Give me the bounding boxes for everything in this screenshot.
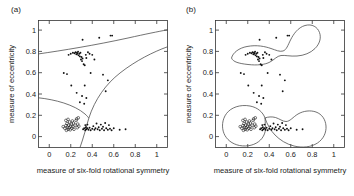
data-point bbox=[119, 129, 121, 131]
data-point bbox=[270, 129, 272, 131]
x-tick-label: 1 bbox=[332, 150, 336, 159]
data-point bbox=[104, 122, 106, 124]
data-point bbox=[261, 124, 263, 126]
data-point bbox=[70, 85, 72, 87]
data-point bbox=[89, 53, 91, 55]
panel-b: (b) bbox=[177, 0, 354, 196]
lower-left-boundary-a bbox=[39, 98, 89, 118]
plot-frame-a bbox=[39, 21, 168, 148]
data-point bbox=[84, 124, 86, 126]
data-point bbox=[93, 59, 95, 61]
y-tick-label: 1 bbox=[209, 26, 213, 35]
data-point bbox=[286, 128, 288, 130]
y-tick-label: 0 bbox=[32, 132, 36, 141]
x-tick-label: 0.6 bbox=[109, 150, 119, 159]
upper-closed-contour-b bbox=[232, 25, 321, 65]
x-tick-label: 0.6 bbox=[286, 150, 296, 159]
data-point bbox=[89, 127, 91, 129]
data-point bbox=[290, 127, 292, 129]
data-point bbox=[266, 53, 268, 55]
data-point bbox=[91, 128, 93, 130]
x-axis-title-a: measure of six-fold rotational symmetry bbox=[37, 166, 170, 175]
decision-boundaries-a bbox=[39, 30, 168, 148]
data-point bbox=[284, 79, 286, 81]
data-point bbox=[105, 90, 107, 92]
data-point bbox=[280, 129, 282, 131]
data-point bbox=[279, 126, 281, 128]
y-tick-label: 0.6 bbox=[203, 68, 213, 77]
data-point bbox=[296, 129, 298, 131]
data-point bbox=[262, 54, 264, 56]
data-point bbox=[268, 54, 270, 56]
data-point bbox=[111, 129, 113, 131]
data-point bbox=[76, 126, 79, 129]
data-point bbox=[245, 54, 247, 56]
y-tick-label: 0.6 bbox=[26, 68, 36, 77]
data-point bbox=[302, 128, 304, 130]
y-tick-label: 0 bbox=[209, 132, 213, 141]
data-point bbox=[66, 73, 68, 75]
data-point bbox=[84, 64, 86, 66]
x-tick-label: 0.2 bbox=[243, 150, 253, 159]
y-tick-labels-a: 0 0.2 0.4 0.6 0.8 1 bbox=[26, 26, 36, 142]
data-point bbox=[253, 126, 256, 129]
data-point bbox=[239, 125, 242, 128]
x-tick-labels-b: 0 0.2 0.4 0.6 0.8 1 bbox=[224, 150, 336, 159]
data-point bbox=[257, 59, 259, 61]
data-point bbox=[262, 57, 264, 59]
y-axis-title-a: measure of eccentricity bbox=[7, 45, 16, 123]
data-point bbox=[247, 53, 249, 55]
data-point bbox=[261, 85, 263, 87]
data-point bbox=[82, 58, 84, 60]
data-point bbox=[274, 128, 276, 130]
data-point bbox=[107, 79, 109, 81]
y-tick-labels-b: 0 0.2 0.4 0.6 0.8 1 bbox=[203, 26, 213, 142]
data-point bbox=[267, 129, 269, 131]
data-point bbox=[260, 103, 262, 105]
data-point bbox=[259, 58, 261, 60]
y-ticks-a bbox=[39, 30, 168, 137]
data-point bbox=[113, 127, 115, 129]
data-point bbox=[88, 129, 90, 131]
data-point bbox=[102, 74, 104, 76]
data-point bbox=[86, 127, 88, 129]
data-point bbox=[281, 122, 283, 124]
data-point bbox=[101, 128, 103, 130]
data-point bbox=[270, 59, 272, 61]
x-tick-labels-a: 0 0.2 0.4 0.6 0.8 1 bbox=[47, 150, 159, 159]
y-tick-label: 0.4 bbox=[26, 90, 36, 99]
data-point bbox=[278, 128, 280, 130]
data-point bbox=[98, 37, 100, 39]
x-tick-label: 0.8 bbox=[130, 150, 140, 159]
data-point bbox=[273, 123, 275, 125]
data-point bbox=[266, 127, 268, 129]
series-high-eccentricity-b bbox=[240, 35, 290, 105]
data-point bbox=[100, 124, 102, 126]
data-point bbox=[76, 53, 78, 55]
data-point bbox=[74, 124, 77, 127]
data-point bbox=[103, 129, 105, 131]
data-point bbox=[284, 129, 286, 131]
data-point bbox=[243, 73, 245, 75]
y-tick-label: 0.4 bbox=[203, 90, 213, 99]
data-point bbox=[102, 126, 104, 128]
x-tick-label: 0 bbox=[47, 150, 51, 159]
data-point bbox=[275, 126, 277, 128]
y-tick-label: 0.2 bbox=[26, 111, 36, 120]
data-point bbox=[85, 97, 87, 99]
data-point bbox=[68, 54, 70, 56]
y-tick-label: 0.2 bbox=[203, 111, 213, 120]
data-point bbox=[70, 53, 72, 55]
data-point bbox=[95, 127, 97, 129]
data-point bbox=[262, 97, 264, 99]
data-point bbox=[256, 55, 258, 57]
data-point bbox=[260, 127, 262, 129]
figure-container: (a) bbox=[0, 0, 354, 196]
upper-linear-boundary-a bbox=[39, 30, 168, 54]
data-point bbox=[282, 127, 284, 129]
data-point bbox=[85, 57, 87, 59]
data-point bbox=[262, 126, 264, 128]
data-point bbox=[92, 125, 94, 127]
data-point bbox=[259, 39, 261, 41]
data-point bbox=[79, 52, 81, 54]
